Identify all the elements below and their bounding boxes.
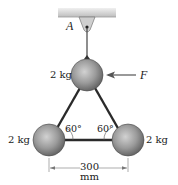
sphere-bottom-left <box>33 124 65 156</box>
mass-label-top: 2 kg <box>50 70 72 80</box>
sphere-top <box>71 59 103 91</box>
mass-label-bottom-right: 2 kg <box>146 135 168 145</box>
ceiling <box>58 8 116 17</box>
force-label: F <box>140 69 147 81</box>
sphere-bottom-right <box>112 124 144 156</box>
angle-label-left: 60° <box>65 124 82 134</box>
diagram-canvas <box>0 0 178 185</box>
dimension-unit: mm <box>80 172 99 182</box>
mass-label-bottom-left: 2 kg <box>8 135 30 145</box>
support-label: A <box>66 20 73 32</box>
angle-label-right: 60° <box>97 124 114 134</box>
